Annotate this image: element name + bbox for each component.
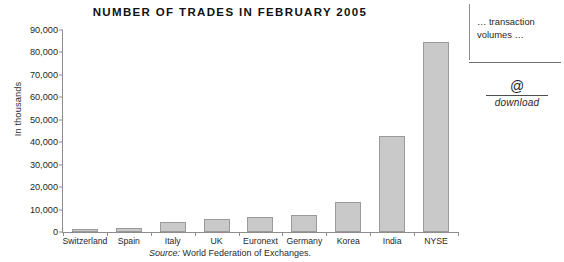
side-vertical-rule: [469, 4, 470, 60]
download-block[interactable]: @ download: [477, 78, 557, 108]
x-axis-tick-label: Switzerland: [62, 236, 107, 246]
side-divider: [469, 62, 561, 63]
bar-slot: [239, 30, 283, 232]
x-axis-tick-mark: [370, 232, 371, 236]
source-note: Source: World Federation of Exchanges.: [0, 248, 460, 258]
y-axis-tick-mark: [59, 209, 63, 210]
y-axis-tick-label: 90,000: [12, 25, 58, 35]
x-axis-line: [62, 232, 458, 233]
bar-slot: [107, 30, 151, 232]
bar[interactable]: [423, 42, 449, 232]
y-axis-tick-mark: [59, 74, 63, 75]
x-axis-tick-mark: [63, 232, 64, 236]
download-rule: [486, 95, 548, 96]
bar[interactable]: [247, 217, 273, 232]
bar-slot: [370, 30, 414, 232]
side-panel: … transaction volumes … @ download: [467, 0, 564, 262]
x-axis-tick-mark: [458, 232, 459, 236]
x-axis-tick-label: Euronext: [243, 236, 278, 246]
x-axis-tick-label: NYSE: [424, 236, 448, 246]
bar-slot: [414, 30, 458, 232]
download-link[interactable]: download: [477, 97, 557, 108]
side-caption: … transaction volumes …: [477, 16, 562, 41]
x-axis-tick-mark: [282, 232, 283, 236]
y-axis-tick-label: 40,000: [12, 137, 58, 147]
bar[interactable]: [291, 215, 317, 232]
x-axis-tick-label: Korea: [337, 236, 360, 246]
bar-slot: [282, 30, 326, 232]
x-axis-tick-label: Italy: [165, 236, 181, 246]
y-axis-tick-label: 30,000: [12, 160, 58, 170]
chart-page: NUMBER OF TRADES IN FEBRUARY 2005 In tho…: [0, 0, 564, 262]
bar[interactable]: [204, 219, 230, 232]
x-axis-tick-mark: [151, 232, 152, 236]
y-axis-tick-mark: [59, 119, 63, 120]
bar[interactable]: [72, 229, 98, 232]
bars-layer: [63, 30, 458, 232]
source-text: World Federation of Exchanges.: [180, 248, 311, 258]
y-axis-tick-mark: [59, 30, 63, 31]
plot-area: In thousands 010,00020,00030,00040,00050…: [0, 0, 465, 262]
x-axis-tick-label: Germany: [287, 236, 323, 246]
bar[interactable]: [335, 202, 361, 232]
x-axis-tick-label: India: [383, 236, 402, 246]
y-axis-tick-label: 10,000: [12, 205, 58, 215]
y-axis-tick-mark: [59, 52, 63, 53]
at-icon: @: [477, 78, 557, 94]
y-axis-tick-label: 0: [12, 227, 58, 237]
y-axis-tick-label: 70,000: [12, 70, 58, 80]
bar-slot: [63, 30, 107, 232]
x-axis-tick-mark: [326, 232, 327, 236]
bar[interactable]: [160, 222, 186, 232]
x-axis-tick-mark: [195, 232, 196, 236]
bar[interactable]: [116, 228, 142, 232]
y-axis-tick-label: 50,000: [12, 115, 58, 125]
bar-slot: [326, 30, 370, 232]
y-axis-tick-mark: [59, 187, 63, 188]
y-axis-tick-label: 80,000: [12, 47, 58, 57]
y-axis-tick-labels: 010,00020,00030,00040,00050,00060,00070,…: [12, 24, 58, 238]
bar-slot: [151, 30, 195, 232]
x-axis-tick-mark: [239, 232, 240, 236]
y-axis-tick-label: 20,000: [12, 182, 58, 192]
y-axis-tick-mark: [59, 142, 63, 143]
source-label: Source:: [149, 248, 180, 258]
x-axis-tick-mark: [414, 232, 415, 236]
x-axis-tick-label: Spain: [118, 236, 140, 246]
y-axis-tick-mark: [59, 97, 63, 98]
bar-slot: [195, 30, 239, 232]
y-axis-tick-label: 60,000: [12, 92, 58, 102]
x-axis-tick-label: UK: [211, 236, 223, 246]
y-axis-tick-mark: [59, 164, 63, 165]
bar[interactable]: [379, 136, 405, 232]
